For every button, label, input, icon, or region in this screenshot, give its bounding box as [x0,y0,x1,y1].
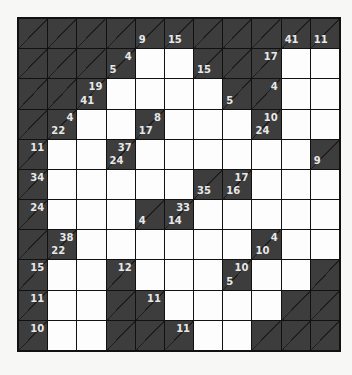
entry-cell[interactable] [194,230,222,259]
entry-cell[interactable] [194,291,222,320]
entry-cell[interactable] [223,140,251,169]
across-clue: 24 [30,203,44,213]
entry-cell[interactable] [194,110,222,139]
entry-cell[interactable] [107,110,135,139]
entry-cell[interactable] [77,230,105,259]
clue-cell: 9 [136,19,164,48]
entry-cell[interactable] [311,49,339,78]
down-clue: 5 [110,65,117,75]
entry-cell[interactable] [136,170,164,199]
entry-cell[interactable] [48,291,76,320]
clue-cell: 9 [311,140,339,169]
entry-cell[interactable] [165,260,193,289]
down-clue: 24 [255,126,269,136]
clue-cell: 41 [282,19,310,48]
entry-cell[interactable] [136,140,164,169]
entry-cell[interactable] [165,79,193,108]
clue-cell: 34 [19,170,47,199]
across-clue: 10 [264,113,278,123]
entry-cell[interactable] [107,79,135,108]
entry-cell[interactable] [223,200,251,229]
block-cell [252,19,280,48]
down-clue: 9 [139,35,146,45]
entry-cell[interactable] [223,110,251,139]
entry-cell[interactable] [165,140,193,169]
entry-cell[interactable] [252,291,280,320]
down-clue: 22 [51,126,65,136]
entry-cell[interactable] [77,140,105,169]
entry-cell[interactable] [282,230,310,259]
entry-cell[interactable] [282,200,310,229]
entry-cell[interactable] [107,230,135,259]
entry-cell[interactable] [48,140,76,169]
across-clue: 4 [66,113,73,123]
entry-cell[interactable] [282,170,310,199]
block-cell [107,291,135,320]
entry-cell[interactable] [194,200,222,229]
across-clue: 11 [176,324,190,334]
entry-cell[interactable] [107,200,135,229]
entry-cell[interactable] [282,49,310,78]
entry-cell[interactable] [48,170,76,199]
entry-cell[interactable] [136,230,164,259]
entry-cell[interactable] [77,170,105,199]
entry-cell[interactable] [223,230,251,259]
entry-cell[interactable] [311,110,339,139]
clue-cell: 45 [107,49,135,78]
clue-cell: 1716 [223,170,251,199]
entry-cell[interactable] [311,170,339,199]
entry-cell[interactable] [165,110,193,139]
down-clue: 9 [314,156,321,166]
entry-cell[interactable] [165,291,193,320]
entry-cell[interactable] [77,110,105,139]
down-clue: 15 [197,65,211,75]
entry-cell[interactable] [48,321,76,350]
entry-cell[interactable] [252,200,280,229]
down-clue: 5 [226,277,233,287]
block-cell [223,49,251,78]
entry-cell[interactable] [136,260,164,289]
entry-cell[interactable] [252,260,280,289]
entry-cell[interactable] [282,260,310,289]
clue-cell: 11 [19,291,47,320]
entry-cell[interactable] [48,260,76,289]
entry-cell[interactable] [194,79,222,108]
entry-cell[interactable] [282,79,310,108]
entry-cell[interactable] [165,230,193,259]
down-clue: 16 [226,186,240,196]
across-clue: 17 [264,52,278,62]
down-clue: 35 [197,186,211,196]
block-cell [107,19,135,48]
clue-cell: 35 [194,170,222,199]
clue-cell: 410 [252,230,280,259]
entry-cell[interactable] [77,291,105,320]
entry-cell[interactable] [107,170,135,199]
entry-cell[interactable] [252,170,280,199]
block-cell [19,49,47,78]
across-clue: 4 [125,52,132,62]
entry-cell[interactable] [223,291,251,320]
entry-cell[interactable] [136,79,164,108]
entry-cell[interactable] [194,321,222,350]
entry-cell[interactable] [48,200,76,229]
block-cell [77,19,105,48]
entry-cell[interactable] [252,140,280,169]
entry-cell[interactable] [311,79,339,108]
entry-cell[interactable] [165,49,193,78]
block-cell [311,321,339,350]
entry-cell[interactable] [77,321,105,350]
entry-cell[interactable] [223,321,251,350]
entry-cell[interactable] [282,110,310,139]
entry-cell[interactable] [311,230,339,259]
entry-cell[interactable] [77,200,105,229]
entry-cell[interactable] [194,140,222,169]
entry-cell[interactable] [282,140,310,169]
block-cell [311,291,339,320]
entry-cell[interactable] [311,200,339,229]
entry-cell[interactable] [194,260,222,289]
entry-cell[interactable] [165,170,193,199]
clue-cell: 3724 [107,140,135,169]
entry-cell[interactable] [77,260,105,289]
entry-cell[interactable] [136,49,164,78]
across-clue: 17 [235,173,249,183]
